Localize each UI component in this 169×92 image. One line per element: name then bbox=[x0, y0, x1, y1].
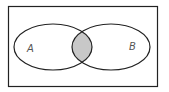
set-a-label: A bbox=[26, 43, 34, 54]
set-b-label: B bbox=[129, 41, 136, 52]
venn-diagram: A B bbox=[0, 0, 169, 92]
